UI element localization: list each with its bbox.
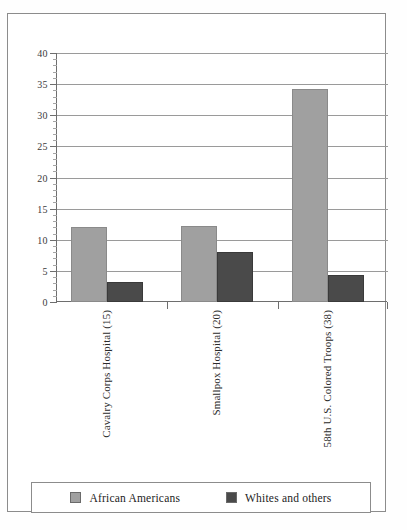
y-tick [50,271,57,272]
y-tick [50,209,57,210]
y-tick-label: 0 [43,297,48,308]
bar-whites-and-others [107,282,143,302]
y-tick [50,53,57,54]
y-tick [50,302,57,303]
bar-group [278,53,388,302]
y-tick-label: 40 [37,48,48,59]
bar-group [167,53,277,302]
legend-entry: African Americans [70,492,180,504]
legend-label: African Americans [89,492,180,504]
y-tick-label: 30 [37,110,48,121]
legend-entry: Whites and others [226,492,331,504]
category-label: Smallpox Hospital (20) [210,310,222,415]
bar-african-americans [181,226,217,302]
bar-group [57,53,167,302]
category-label: 58th U.S. Colored Troops (38) [321,310,333,447]
x-tick [387,302,388,309]
y-tick-label: 10 [37,234,48,245]
y-tick [50,146,57,147]
plot-area: 0510152025303540 [56,53,387,302]
bar-whites-and-others [328,275,364,302]
bars-layer [57,53,388,302]
bar-african-americans [71,227,107,302]
bar-whites-and-others [217,252,253,302]
bar-african-americans [292,89,328,302]
legend-label: Whites and others [245,492,331,504]
y-tick-label: 20 [37,172,48,183]
y-tick [50,178,57,179]
y-tick-label: 25 [37,141,48,152]
x-axis-category-labels: Cavalry Corps Hospital (15)Smallpox Hosp… [56,310,387,470]
legend-swatch-icon [226,492,237,503]
y-tick [50,84,57,85]
chart-legend: African AmericansWhites and others [31,482,371,513]
x-tick [167,302,168,309]
y-tick-label: 5 [43,265,48,276]
y-tick-label: 35 [37,79,48,90]
y-tick [50,115,57,116]
bar-chart-figure: 0510152025303540 Cavalry Corps Hospital … [0,0,407,530]
y-tick [50,240,57,241]
category-label: Cavalry Corps Hospital (15) [100,310,112,438]
x-tick [278,302,279,309]
figure-frame: 0510152025303540 Cavalry Corps Hospital … [7,13,386,512]
legend-swatch-icon [70,492,81,503]
y-tick-label: 15 [37,203,48,214]
